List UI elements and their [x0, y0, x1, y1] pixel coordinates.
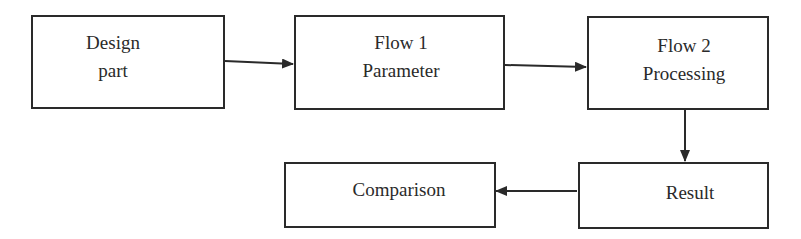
node-result: Result [578, 162, 769, 229]
node-result-label: Result [655, 179, 725, 207]
node-label-line2: Parameter [346, 57, 456, 85]
node-label-line2: Processing [629, 60, 739, 88]
node-flow2-processing-label: Flow 2 Processing [629, 32, 739, 88]
node-flow1-parameter-label: Flow 1 Parameter [346, 29, 456, 85]
node-label-line1: Design [73, 29, 153, 57]
node-design-part: Design part [31, 15, 225, 109]
node-label-line2: part [73, 57, 153, 85]
node-comparison-label: Comparison [344, 176, 454, 204]
node-design-part-label: Design part [73, 29, 153, 85]
arrow-flow1-to-flow2 [505, 65, 586, 67]
node-flow2-processing: Flow 2 Processing [587, 16, 769, 110]
arrow-design-to-flow1 [225, 61, 293, 64]
node-comparison: Comparison [284, 162, 496, 228]
node-label-line1: Flow 2 [629, 32, 739, 60]
node-label-line1: Flow 1 [346, 29, 456, 57]
node-label-line1: Comparison [344, 176, 454, 204]
node-label-line1: Result [655, 179, 725, 207]
flowchart-canvas: Design part Flow 1 Parameter Flow 2 Proc… [0, 0, 801, 239]
node-flow1-parameter: Flow 1 Parameter [294, 15, 505, 110]
